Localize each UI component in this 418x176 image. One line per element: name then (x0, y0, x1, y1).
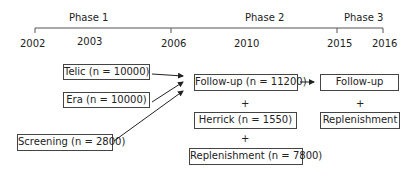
year-2010: 2010 (234, 38, 259, 50)
plus-sign: + (241, 134, 249, 144)
replenishment-phase2-box: Replenishment (n = 7800) (189, 148, 303, 165)
herrick-box: Herrick (n = 1550) (194, 112, 297, 129)
screening-box: Screening (n = 2800) (17, 134, 113, 151)
year-2006: 2006 (161, 38, 186, 50)
plus-sign: + (356, 99, 364, 109)
year-2016: 2016 (372, 38, 397, 50)
plus-sign: + (241, 99, 249, 109)
era-box: Era (n = 10000) (63, 92, 150, 108)
year-2003: 2003 (77, 36, 102, 48)
replenishment-phase3-box: Replenishment (320, 112, 400, 129)
followup-phase3-box: Follow-up (320, 74, 399, 91)
phase-1-label: Phase 1 (69, 12, 108, 24)
phase-2-label: Phase 2 (245, 12, 284, 24)
phase-3-label: Phase 3 (344, 12, 383, 24)
telic-box: Telic (n = 10000) (63, 64, 150, 80)
year-2015: 2015 (327, 38, 352, 50)
study-timeline-diagram: Phase 1 Phase 2 Phase 3 2002 2003 2006 2… (0, 0, 418, 176)
followup-phase2-box: Follow-up (n = 11200) (194, 74, 298, 91)
year-2002: 2002 (20, 38, 45, 50)
